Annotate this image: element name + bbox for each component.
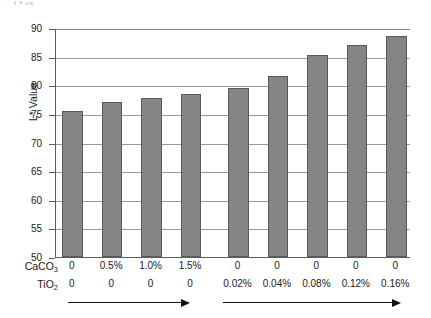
bar-2 bbox=[102, 102, 123, 257]
y-tick-label-55: 55 bbox=[8, 224, 42, 234]
x-cell-caco3-9: 0 bbox=[371, 260, 419, 272]
bar-9 bbox=[386, 36, 407, 257]
cropped-title-fragment: L* vs bbox=[14, 0, 54, 5]
y-tick-label-65: 65 bbox=[8, 167, 42, 177]
y-tick-label-75: 75 bbox=[8, 110, 42, 120]
arrow-head-caco3 bbox=[181, 299, 190, 307]
chart-figure: L* vs L* Value 505560657075808590 CaCO3 … bbox=[0, 0, 431, 318]
bar-5 bbox=[228, 88, 249, 257]
arrow-head-tio2 bbox=[392, 299, 401, 307]
y-tick-label-85: 85 bbox=[8, 53, 42, 63]
arrow-line-tio2 bbox=[223, 302, 393, 303]
y-tick-label-90: 90 bbox=[8, 24, 42, 34]
bar-6 bbox=[268, 76, 289, 257]
x-cell-tio2-9: 0.16% bbox=[371, 278, 419, 290]
x-cell-tio2-4: 0 bbox=[166, 278, 214, 290]
y-tick-label-60: 60 bbox=[8, 196, 42, 206]
bar-7 bbox=[307, 55, 328, 257]
bar-8 bbox=[347, 45, 368, 257]
arrow-line-caco3 bbox=[68, 302, 182, 303]
y-tick-label-80: 80 bbox=[8, 81, 42, 91]
bar-1 bbox=[62, 111, 83, 257]
plot-area bbox=[55, 29, 410, 258]
x-cell-caco3-4: 1.5% bbox=[166, 260, 214, 272]
gridline-90 bbox=[56, 29, 410, 30]
bar-4 bbox=[181, 94, 202, 257]
bar-3 bbox=[141, 98, 162, 257]
y-tick-label-70: 70 bbox=[8, 139, 42, 149]
x-axis-labels: CaCO3 TiO2 00.5%1.0%1.5%0000000000.02%0.… bbox=[0, 258, 431, 318]
